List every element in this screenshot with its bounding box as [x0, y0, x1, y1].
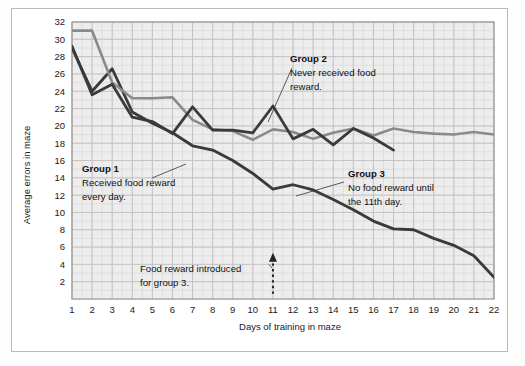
annotation-group-1-line1: Received food reward: [82, 177, 175, 188]
annotation-group-2-line2: reward.: [290, 81, 322, 92]
x-tick-14: 14: [328, 304, 339, 315]
x-tick-17: 17: [388, 304, 399, 315]
y-tick-2: 2: [60, 276, 65, 287]
y-tick-18: 18: [54, 138, 65, 149]
x-tick-10: 10: [248, 304, 259, 315]
x-tick-5: 5: [150, 304, 155, 315]
annotation-group-3-line2: the 11th day.: [348, 196, 402, 207]
y-tick-14: 14: [54, 172, 65, 183]
x-tick-13: 13: [308, 304, 319, 315]
x-tick-21: 21: [469, 304, 480, 315]
x-tick-20: 20: [449, 304, 460, 315]
line-chart: 2468101214161820222426283032 12345678910…: [0, 0, 525, 366]
y-axis-title: Average errors in maze: [21, 126, 32, 225]
x-tick-15: 15: [348, 304, 359, 315]
y-tick-32: 32: [54, 16, 65, 27]
annotation-group-1-line2: every day.: [82, 191, 126, 202]
x-tick-4: 4: [130, 304, 135, 315]
figure-page: 2468101214161820222426283032 12345678910…: [0, 0, 525, 366]
x-axis-title: Days of training in maze: [239, 321, 341, 332]
y-tick-8: 8: [60, 224, 65, 235]
y-tick-10: 10: [54, 207, 65, 218]
annotation-group-3-line1: No food reward until: [348, 182, 434, 193]
x-tick-22: 22: [489, 304, 500, 315]
y-tick-28: 28: [54, 51, 65, 62]
annotation-group-3-title: Group 3: [348, 168, 385, 179]
y-tick-20: 20: [54, 120, 65, 131]
annotation-group-2-line1: Never received food: [290, 67, 376, 78]
x-tick-19: 19: [428, 304, 439, 315]
x-tick-12: 12: [288, 304, 299, 315]
x-tick-16: 16: [368, 304, 379, 315]
annotation-food-reward-line1: Food reward introduced: [140, 263, 241, 274]
annotation-group-2-title: Group 2: [290, 53, 327, 64]
y-tick-24: 24: [54, 86, 65, 97]
x-tick-1: 1: [69, 304, 74, 315]
annotation-group-1-title: Group 1: [82, 163, 119, 174]
x-tick-3: 3: [110, 304, 115, 315]
y-tick-6: 6: [60, 241, 65, 252]
x-tick-6: 6: [170, 304, 175, 315]
x-tick-11: 11: [268, 304, 278, 315]
y-tick-26: 26: [54, 68, 65, 79]
y-tick-16: 16: [54, 155, 65, 166]
y-axis-tick-labels: 2468101214161820222426283032: [54, 16, 65, 287]
y-tick-30: 30: [54, 34, 65, 45]
annotation-food-reward-line2: for group 3.: [140, 277, 189, 288]
x-tick-2: 2: [89, 304, 94, 315]
x-tick-9: 9: [230, 304, 235, 315]
x-tick-8: 8: [210, 304, 215, 315]
y-tick-12: 12: [54, 190, 65, 201]
x-axis-tick-labels: 12345678910111213141516171819202122: [69, 304, 499, 315]
y-tick-22: 22: [54, 103, 65, 114]
y-tick-4: 4: [60, 259, 65, 270]
x-tick-18: 18: [408, 304, 419, 315]
x-tick-7: 7: [190, 304, 195, 315]
